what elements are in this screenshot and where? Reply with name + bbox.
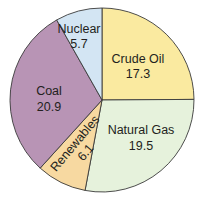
- slice-name: Crude Oil: [112, 52, 165, 66]
- slice-value: 19.5: [129, 139, 153, 153]
- slice-value: 5.7: [70, 37, 87, 51]
- slice-name: Coal: [36, 84, 62, 98]
- slice-value: 20.9: [37, 100, 61, 114]
- slice-value: 17.3: [126, 67, 150, 81]
- pie-chart: Crude Oil 17.3 Natural Gas 19.5 Renewabl…: [0, 0, 199, 199]
- slice-name: Nuclear: [57, 22, 100, 36]
- slice-name: Natural Gas: [108, 123, 175, 137]
